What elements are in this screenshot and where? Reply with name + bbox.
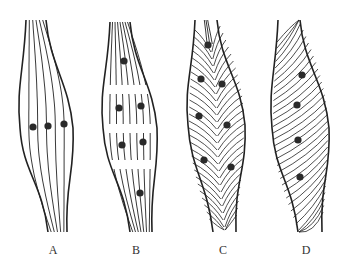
nucleus-dot xyxy=(139,138,146,145)
label-c: C xyxy=(219,243,227,258)
muscle-illustration xyxy=(0,0,347,272)
muscle-outline-left xyxy=(187,20,213,232)
fiber-line xyxy=(128,22,151,232)
label-b: B xyxy=(132,243,140,258)
nucleus-dot xyxy=(118,141,125,148)
nucleus-dot xyxy=(293,101,300,108)
nucleus-dot xyxy=(115,104,122,111)
nucleus-dot xyxy=(218,80,225,87)
nucleus-dot xyxy=(29,123,36,130)
muscle-outline-right xyxy=(130,22,157,232)
muscle-diagram: A B C D xyxy=(0,0,347,272)
fiber-line xyxy=(276,121,328,159)
fiber-line xyxy=(273,82,322,120)
nucleus-dot xyxy=(227,163,234,170)
nucleus-dot xyxy=(137,102,144,109)
nucleus-dot xyxy=(294,136,301,143)
fiber-line xyxy=(208,20,213,44)
nucleus-dot xyxy=(223,121,230,128)
fiber-line xyxy=(273,95,325,133)
fiber-line xyxy=(115,22,136,232)
fiber-line xyxy=(289,167,327,205)
nucleus-dot xyxy=(298,71,305,78)
fiber-line xyxy=(275,115,328,153)
nucleus-dot xyxy=(197,75,204,82)
nucleus-dot xyxy=(204,41,211,48)
label-d: D xyxy=(302,243,311,258)
nucleus-dot xyxy=(136,189,143,196)
nucleus-dot xyxy=(296,173,303,180)
fiber-line xyxy=(216,68,235,94)
nucleus-dot xyxy=(195,112,202,119)
label-a: A xyxy=(49,243,58,258)
fiber-line xyxy=(274,50,311,88)
fiber-line xyxy=(273,69,318,107)
nucleus-dot xyxy=(60,120,67,127)
fiber-line xyxy=(275,30,303,68)
nucleus-dot xyxy=(120,57,127,64)
nucleus-dot xyxy=(44,122,51,129)
nucleus-dot xyxy=(200,156,207,163)
